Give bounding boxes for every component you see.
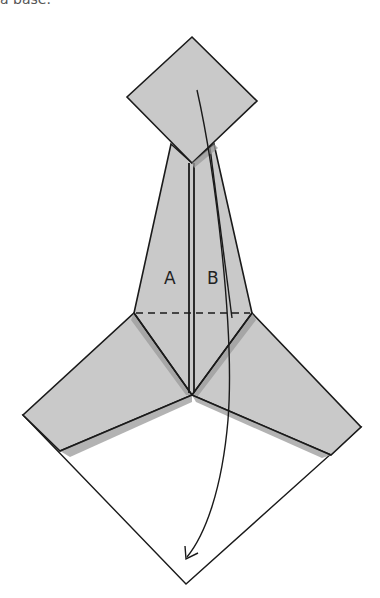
label-b: B <box>207 268 219 288</box>
label-a: A <box>164 268 176 288</box>
origami-diagram: A B <box>0 0 380 598</box>
top-diamond <box>127 37 257 163</box>
